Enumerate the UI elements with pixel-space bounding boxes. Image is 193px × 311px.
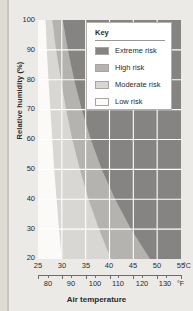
legend-item-high-risk: High risk	[95, 62, 144, 73]
x-tick-c-50: 50	[145, 262, 169, 270]
x-axis-title: Air temperature	[0, 295, 193, 304]
x-axis-group: 25 30 35 40 45 50 55 °C 80 90 100 110 12…	[0, 259, 193, 311]
ruler-tick-f120	[142, 275, 143, 278]
y-tick-30: 30	[13, 225, 35, 233]
ruler-tick-f80	[48, 275, 49, 278]
legend-item-extreme-risk: Extreme risk	[95, 45, 157, 56]
y-tick-70: 70	[13, 105, 35, 113]
x-tick-c-25: 25	[26, 262, 50, 270]
x-unit-celsius: °C	[183, 262, 191, 270]
x-tick-c-40: 40	[97, 262, 121, 270]
ruler-tick-f130	[166, 275, 167, 278]
legend-label-moderate-risk: Moderate risk	[115, 80, 160, 89]
ruler-tick-c35	[86, 275, 87, 279]
x-tick-c-45: 45	[121, 262, 145, 270]
ruler-tick-f90	[71, 275, 72, 278]
legend-box: Key Extreme risk High risk Moderate risk…	[86, 22, 172, 110]
x-tick-f-110: 110	[106, 280, 130, 288]
legend-divider	[95, 40, 165, 41]
ruler-tick-f110	[118, 275, 119, 278]
x-tick-f-80: 80	[36, 280, 60, 288]
legend-label-high-risk: High risk	[115, 63, 144, 72]
ruler-tick-f100	[95, 275, 96, 278]
y-tick-50: 50	[13, 165, 35, 173]
x-tick-c-35: 35	[74, 262, 98, 270]
legend-title: Key	[95, 28, 109, 37]
legend-swatch-extreme-risk	[95, 47, 109, 55]
legend-swatch-low-risk	[95, 98, 109, 106]
y-tick-80: 80	[13, 76, 35, 84]
y-tick-40: 40	[13, 195, 35, 203]
ruler-tick-c30	[62, 275, 63, 279]
ruler-tick-c45	[133, 275, 134, 279]
x-tick-f-130: 130	[153, 280, 177, 288]
ruler-tick-c25	[38, 275, 39, 279]
heat-risk-chart: Relative humidity (%) 100 90 80 70 60 50…	[0, 0, 193, 311]
y-tick-90: 90	[13, 46, 35, 54]
ruler-tick-c55	[181, 275, 182, 279]
y-tick-100: 100	[13, 16, 35, 24]
ruler-tick-c40	[110, 275, 111, 279]
x-tick-c-30: 30	[50, 262, 74, 270]
x-tick-f-100: 100	[83, 280, 107, 288]
x-unit-fahrenheit: °F	[177, 280, 184, 288]
legend-label-extreme-risk: Extreme risk	[115, 46, 157, 55]
x-tick-f-90: 90	[59, 280, 83, 288]
legend-swatch-high-risk	[95, 64, 109, 72]
y-tick-60: 60	[13, 135, 35, 143]
legend-item-moderate-risk: Moderate risk	[95, 79, 160, 90]
legend-item-low-risk: Low risk	[95, 96, 143, 107]
legend-swatch-moderate-risk	[95, 81, 109, 89]
x-tick-f-120: 120	[130, 280, 154, 288]
legend-label-low-risk: Low risk	[115, 97, 143, 106]
